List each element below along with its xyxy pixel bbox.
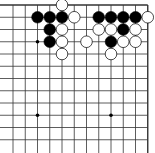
black-stone	[117, 11, 129, 23]
white-stone	[105, 48, 117, 60]
black-stone	[32, 11, 44, 23]
black-stone	[105, 36, 117, 48]
black-stone	[93, 11, 105, 23]
white-stone	[130, 36, 142, 48]
white-stone	[56, 0, 68, 11]
black-stone	[44, 11, 56, 23]
black-stone	[117, 24, 129, 36]
white-stone	[142, 11, 154, 23]
black-stone	[130, 11, 142, 23]
star-point	[109, 113, 113, 117]
black-stone	[44, 24, 56, 36]
black-stone	[44, 36, 56, 48]
white-stone	[117, 36, 129, 48]
star-point	[36, 40, 40, 44]
go-board[interactable]	[0, 0, 155, 153]
white-stone	[130, 24, 142, 36]
white-stone	[105, 24, 117, 36]
black-stone	[105, 11, 117, 23]
black-stone	[56, 11, 68, 23]
white-stone	[56, 24, 68, 36]
white-stone	[68, 11, 80, 23]
white-stone	[56, 36, 68, 48]
white-stone	[93, 24, 105, 36]
white-stone	[56, 48, 68, 60]
star-point	[36, 113, 40, 117]
white-stone	[81, 36, 93, 48]
